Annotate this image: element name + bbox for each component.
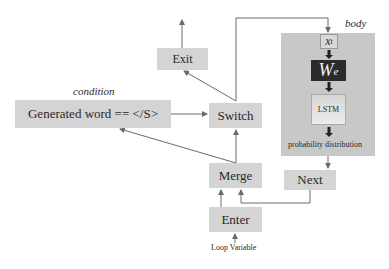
we-sub: e xyxy=(334,65,339,77)
exit-node: Exit xyxy=(157,48,208,70)
switch-label: Switch xyxy=(217,108,253,124)
down-arrow-icon xyxy=(324,50,334,60)
condition-node: Generated word == </S> xyxy=(15,100,171,128)
next-label: Next xyxy=(297,172,322,188)
we-main: W xyxy=(319,60,334,81)
probability-distribution-label: probability distribution xyxy=(288,140,362,149)
enter-node: Enter xyxy=(209,207,262,232)
xt-node: xt xyxy=(320,34,338,49)
next-node: Next xyxy=(284,170,336,190)
loop-variable-label: Loop Variable xyxy=(211,243,256,252)
switch-node: Switch xyxy=(209,103,262,128)
xt-sub: t xyxy=(331,37,333,46)
we-node: We xyxy=(311,60,346,81)
exit-label: Exit xyxy=(173,52,193,67)
enter-label: Enter xyxy=(221,212,249,228)
lstm-node: LSTM xyxy=(311,94,346,125)
merge-node: Merge xyxy=(209,163,262,188)
down-arrow-icon xyxy=(324,127,334,138)
merge-label: Merge xyxy=(219,168,253,184)
down-arrow-icon xyxy=(324,82,334,93)
body-label: body xyxy=(345,17,366,29)
condition-label: condition xyxy=(73,85,115,97)
condition-expression: Generated word == </S> xyxy=(28,106,158,122)
lstm-label: LSTM xyxy=(318,105,339,114)
